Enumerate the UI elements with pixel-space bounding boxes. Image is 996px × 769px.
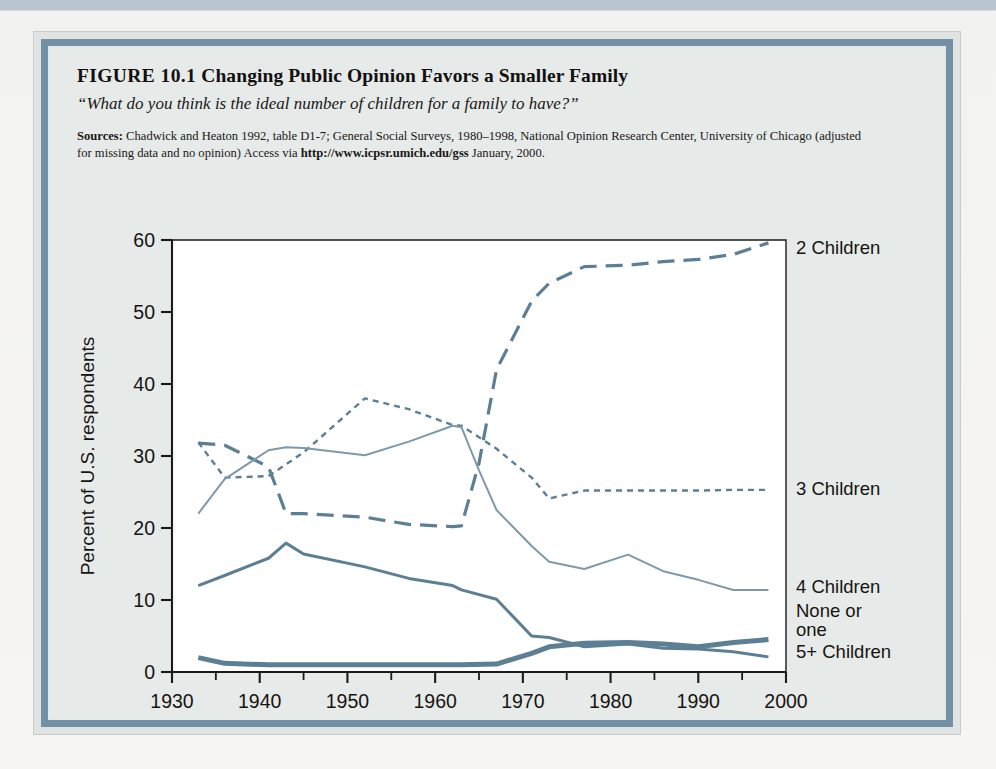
x-axis-tick-label: 1930 <box>150 690 194 712</box>
figure-content-plate: FIGURE 10.1 Changing Public Opinion Favo… <box>50 48 944 718</box>
y-axis-tick-label: 40 <box>133 373 155 395</box>
x-axis-tick-label: 1990 <box>677 690 721 712</box>
x-axis-tick-label: 1950 <box>326 690 370 712</box>
series-label: 4 Children <box>796 576 880 597</box>
y-axis-tick-label: 50 <box>133 301 155 323</box>
x-axis-tick-label: 1970 <box>501 690 545 712</box>
x-axis-tick-label: 2000 <box>764 690 808 712</box>
y-axis-tick-label: 0 <box>144 661 155 683</box>
series-label: 3 Children <box>796 478 880 499</box>
x-axis-tick-label: 1980 <box>589 690 633 712</box>
y-axis-tick-label: 60 <box>133 229 155 251</box>
y-axis-title: Percent of U.S. respondents <box>77 337 98 576</box>
x-axis-tick-label: 1960 <box>413 690 457 712</box>
y-axis-tick-label: 20 <box>133 517 155 539</box>
chart-container: 0102030405060193019401950196019701980199… <box>50 48 944 718</box>
y-axis-tick-label: 10 <box>133 589 155 611</box>
series-label: 5+ Children <box>796 641 891 662</box>
series-label: 2 Children <box>796 237 880 258</box>
x-axis-tick-label: 1940 <box>238 690 282 712</box>
y-axis-tick-label: 30 <box>133 445 155 467</box>
series-label: one <box>796 619 827 640</box>
line-chart: 0102030405060193019401950196019701980199… <box>50 48 944 718</box>
figure-page: FIGURE 10.1 Changing Public Opinion Favo… <box>0 0 996 769</box>
